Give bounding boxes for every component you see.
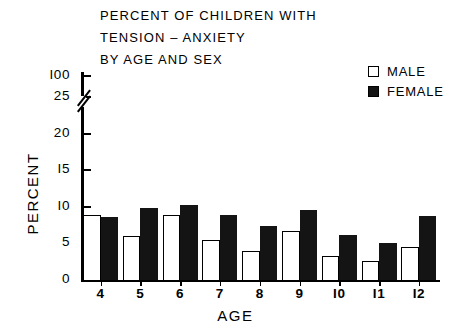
chart-title: PERCENT OF CHILDREN WITH TENSION – ANXIE… [100, 5, 380, 71]
x-tick-label-9: 9 [280, 286, 320, 301]
title-line-2: TENSION – ANXIETY [100, 27, 380, 49]
bar-female-age-12 [419, 216, 437, 280]
x-tick-label-5: 5 [120, 286, 160, 301]
bar-male-age-10 [322, 256, 340, 280]
y-tick-label-100: I00 [26, 67, 70, 82]
chart-legend: MALE FEMALE [368, 62, 444, 102]
bar-female-age-4 [101, 217, 119, 280]
x-tick-label-11: I1 [359, 286, 399, 301]
bar-male-age-8 [242, 251, 260, 280]
legend-item-male: MALE [368, 62, 444, 80]
x-tick-label-12: I2 [399, 286, 439, 301]
x-tick-label-4: 4 [81, 286, 121, 301]
y-tick-100 [84, 75, 91, 77]
bar-male-age-5 [123, 236, 141, 280]
x-tick-label-10: I0 [319, 286, 359, 301]
bar-female-age-6 [180, 205, 198, 280]
bar-female-age-11 [379, 243, 397, 280]
x-tick-label-7: 7 [200, 286, 240, 301]
y-tick-label-20: 20 [26, 125, 70, 140]
x-tick-label-6: 6 [160, 286, 200, 301]
title-line-3: BY AGE AND SEX [100, 49, 380, 71]
chart-figure: PERCENT OF CHILDREN WITH TENSION – ANXIE… [0, 0, 471, 331]
legend-label-female: FEMALE [387, 84, 444, 99]
x-tick-label-8: 8 [240, 286, 280, 301]
y-tick-20 [84, 133, 91, 135]
bar-female-age-5 [140, 208, 158, 280]
bar-female-age-8 [260, 226, 278, 280]
open-square-icon [368, 66, 379, 77]
y-tick-10 [84, 206, 91, 208]
bar-male-age-11 [362, 261, 380, 280]
bar-female-age-7 [220, 215, 238, 280]
y-tick-label-0: 0 [26, 271, 70, 286]
y-tick-label-15: I5 [26, 161, 70, 176]
bar-male-age-12 [401, 247, 419, 280]
bar-male-age-6 [163, 215, 181, 280]
bar-female-age-10 [339, 235, 357, 280]
legend-label-male: MALE [387, 64, 426, 79]
y-tick-label-5: 5 [26, 234, 70, 249]
filled-square-icon [368, 86, 379, 97]
legend-item-female: FEMALE [368, 82, 444, 100]
bar-male-age-4 [83, 215, 101, 280]
x-axis-title: AGE [0, 307, 471, 324]
title-line-1: PERCENT OF CHILDREN WITH [100, 5, 380, 27]
y-tick-15 [84, 169, 91, 171]
y-tick-label-25: 25 [26, 88, 70, 103]
bar-female-age-9 [300, 210, 318, 280]
y-tick-label-10: I0 [26, 198, 70, 213]
bar-male-age-7 [202, 240, 220, 280]
bar-male-age-9 [282, 231, 300, 280]
